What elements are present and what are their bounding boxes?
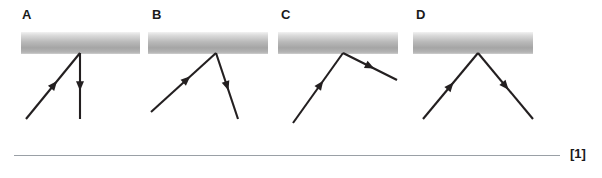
incident-arrow-c [314, 81, 323, 91]
reflected-arrow-a [76, 81, 84, 91]
marks-label: [1] [570, 146, 586, 161]
ray-lines-canvas [0, 0, 602, 145]
reflected-arrow-b [222, 80, 230, 90]
answer-rule [14, 155, 560, 156]
question-figure: ABCD [1] [0, 0, 602, 178]
